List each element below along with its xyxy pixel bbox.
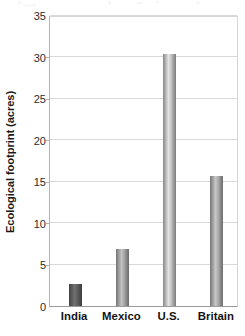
y-axis-tick-labels: 05101520253035 (20, 0, 46, 336)
x-label-u-s: U.S. (158, 310, 180, 322)
bar-india (69, 284, 82, 306)
y-axis-title-text: Ecological footprint (acres) (4, 90, 16, 232)
bar-u-s (163, 54, 176, 306)
y-axis-title: Ecological footprint (acres) (0, 16, 20, 307)
plot-area (49, 16, 238, 307)
ecological-footprint-bar-chart: Ecological footprint (acres) 05101520253… (0, 0, 245, 336)
gridline-35 (50, 15, 237, 16)
x-axis-category-labels: IndiaMexicoU.S.Britain (49, 310, 238, 332)
x-label-mexico: Mexico (102, 310, 141, 322)
x-label-britain: Britain (198, 310, 234, 322)
x-label-india: India (61, 310, 88, 322)
bar-mexico (116, 249, 129, 306)
bar-britain (210, 176, 223, 306)
bar-series (50, 17, 237, 306)
